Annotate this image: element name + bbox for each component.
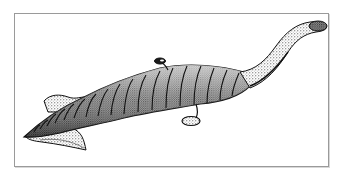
tully-monster-illustration bbox=[0, 0, 344, 175]
claw-head bbox=[309, 21, 327, 31]
proboscis bbox=[240, 22, 327, 88]
